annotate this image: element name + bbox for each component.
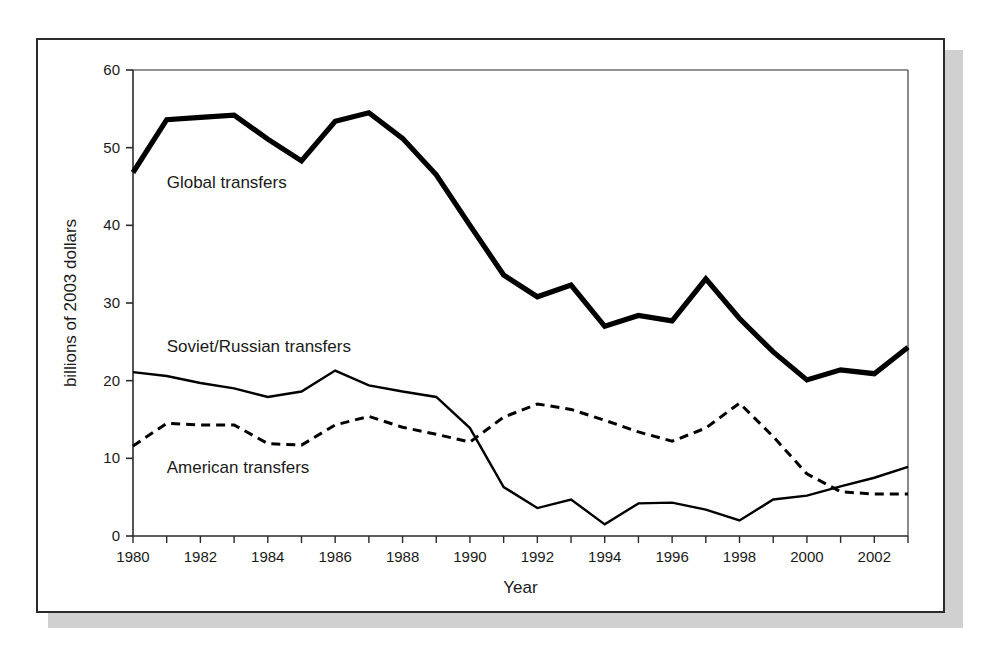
figure-page: 0102030405060198019821984198619881990199… [0, 0, 1000, 657]
x-axis-tick-label: 1986 [318, 548, 351, 565]
y-axis-tick-label: 10 [103, 449, 120, 466]
y-axis-tick-label: 40 [103, 216, 120, 233]
line-chart: 0102030405060198019821984198619881990199… [38, 40, 947, 615]
y-axis-tick-label: 0 [112, 527, 120, 544]
x-axis-tick-label: 2002 [858, 548, 891, 565]
x-axis-tick-label: 1992 [521, 548, 554, 565]
x-axis-tick-label: 1994 [588, 548, 621, 565]
x-axis-tick-label: 1996 [655, 548, 688, 565]
x-axis-tick-label: 1982 [184, 548, 217, 565]
x-axis-tick-label: 1998 [723, 548, 756, 565]
series-label: American transfers [167, 458, 310, 477]
y-axis-tick-label: 20 [103, 372, 120, 389]
x-axis-tick-label: 1990 [453, 548, 486, 565]
series-line [133, 403, 908, 494]
y-axis-tick-label: 60 [103, 61, 120, 78]
x-axis-tick-label: 2000 [790, 548, 823, 565]
series-line [133, 371, 908, 525]
series-label: Global transfers [167, 173, 287, 192]
y-axis-tick-label: 30 [103, 294, 120, 311]
figure-frame: 0102030405060198019821984198619881990199… [36, 38, 945, 613]
series-label: Soviet/Russian transfers [167, 337, 351, 356]
x-axis-tick-label: 1980 [116, 548, 149, 565]
x-axis-tick-label: 1984 [251, 548, 284, 565]
y-axis-tick-label: 50 [103, 139, 120, 156]
x-axis-title: Year [503, 578, 538, 597]
chart-area: 0102030405060198019821984198619881990199… [38, 40, 947, 615]
y-axis-title: billions of 2003 dollars [61, 219, 80, 387]
x-axis-tick-label: 1988 [386, 548, 419, 565]
